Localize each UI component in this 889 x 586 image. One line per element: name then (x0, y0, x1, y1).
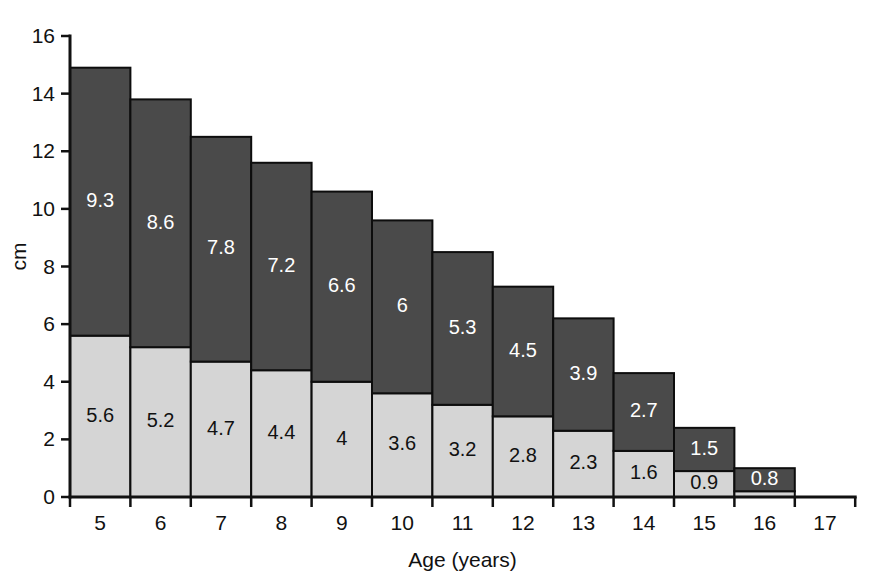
bar-value-label-lower: 5.2 (147, 409, 175, 431)
bar-value-label-upper: 8.6 (147, 211, 175, 233)
y-tick-label: 2 (43, 427, 55, 450)
bar-value-label-lower: 2.8 (509, 444, 537, 466)
x-tick-label: 11 (452, 511, 474, 534)
y-tick-label: 14 (32, 82, 56, 105)
y-axis-ticks: 0246810121416 (32, 24, 70, 508)
bars-layer (70, 68, 795, 497)
bar-value-label-upper: 4.5 (509, 339, 537, 361)
y-tick-label: 4 (43, 370, 55, 393)
bar-value-label-upper: 6.6 (328, 274, 356, 296)
x-axis-title: Age (years) (408, 548, 517, 571)
bar-value-label-lower: 0.9 (690, 471, 718, 493)
bar-value-label-lower: 1.6 (630, 461, 658, 483)
bar-value-label-upper: 9.3 (86, 189, 114, 211)
x-tick-label: 17 (813, 511, 836, 534)
x-tick-label: 7 (215, 511, 227, 534)
x-tick-label: 5 (94, 511, 106, 534)
x-tick-label: 6 (155, 511, 167, 534)
bar-value-label-upper: 3.9 (569, 362, 597, 384)
x-tick-label: 16 (753, 511, 776, 534)
bar-value-label-upper: 1.5 (690, 437, 718, 459)
bar-value-label-lower: 4.4 (267, 421, 295, 443)
bar-value-label-lower: 4 (336, 427, 347, 449)
x-tick-label: 9 (336, 511, 348, 534)
chart-canvas: 0246810121416 567891011121314151617 5.69… (0, 0, 889, 586)
bar-value-label-upper: 7.2 (267, 254, 295, 276)
x-tick-label: 8 (276, 511, 288, 534)
y-tick-label: 6 (43, 312, 55, 335)
y-tick-label: 8 (43, 255, 55, 278)
bar-value-label-upper: 0.8 (751, 467, 779, 489)
bar-value-label-lower: 4.7 (207, 417, 235, 439)
x-tick-label: 14 (632, 511, 656, 534)
y-tick-label: 16 (32, 24, 55, 47)
x-tick-label: 10 (391, 511, 414, 534)
x-axis-ticks: 567891011121314151617 (70, 497, 855, 534)
x-tick-label: 12 (511, 511, 534, 534)
y-tick-label: 10 (32, 197, 55, 220)
bar-value-label-upper: 5.3 (449, 316, 477, 338)
y-tick-label: 0 (43, 485, 55, 508)
y-axis-title: cm (7, 243, 30, 271)
stacked-bar-chart: 0246810121416 567891011121314151617 5.69… (0, 0, 889, 586)
x-tick-label: 15 (693, 511, 716, 534)
bar-value-label-upper: 6 (397, 294, 408, 316)
y-tick-label: 12 (32, 139, 55, 162)
bar-value-label-lower: 5.6 (86, 404, 114, 426)
bar-value-label-lower: 3.2 (449, 438, 477, 460)
bar-value-label-lower: 3.6 (388, 432, 416, 454)
bar-value-label-lower: 2.3 (569, 451, 597, 473)
bar-value-label-upper: 2.7 (630, 399, 658, 421)
bar-value-label-upper: 7.8 (207, 236, 235, 258)
x-tick-label: 13 (572, 511, 595, 534)
